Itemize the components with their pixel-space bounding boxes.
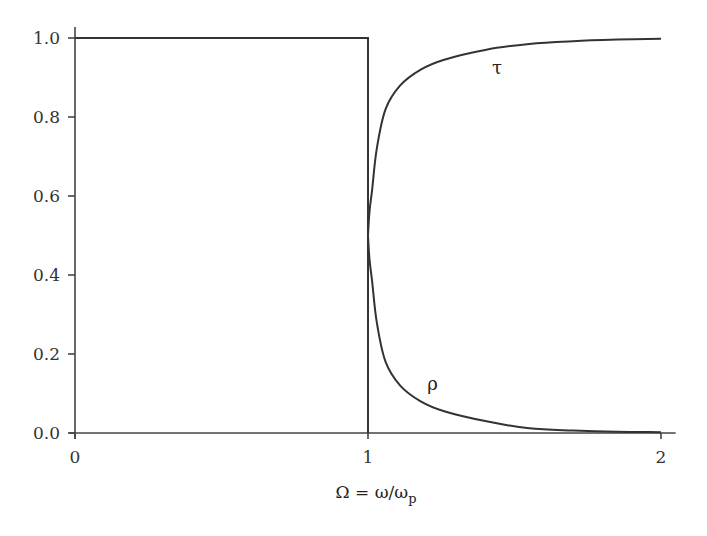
series-step-line bbox=[75, 38, 368, 433]
x-tick-label: 0 bbox=[70, 447, 81, 467]
x-axis-title-main: Ω = ω/ω bbox=[336, 482, 409, 502]
x-ticks: 012 bbox=[70, 433, 667, 467]
x-tick-label: 1 bbox=[363, 447, 374, 467]
y-tick-label: 0.2 bbox=[33, 344, 60, 364]
chart: 0.00.20.40.60.81.0 012 τρ Ω = ω/ωp bbox=[0, 0, 707, 536]
y-tick-label: 0.0 bbox=[33, 423, 60, 443]
series-tau-line bbox=[368, 39, 661, 236]
axes bbox=[69, 27, 676, 439]
y-tick-label: 0.8 bbox=[33, 107, 60, 127]
y-tick-label: 0.6 bbox=[33, 186, 60, 206]
y-tick-label: 1.0 bbox=[33, 28, 60, 48]
y-tick-label: 0.4 bbox=[33, 265, 60, 285]
x-axis-title: Ω = ω/ωp bbox=[336, 482, 417, 506]
series-rho-line bbox=[368, 236, 661, 433]
y-ticks: 0.00.20.40.60.81.0 bbox=[33, 28, 75, 443]
x-axis-title-subscript: p bbox=[408, 491, 416, 506]
series bbox=[75, 38, 661, 433]
x-tick-label: 2 bbox=[656, 447, 667, 467]
tau-label: τ bbox=[492, 57, 502, 78]
annotations: τρ bbox=[427, 57, 502, 394]
rho-label: ρ bbox=[427, 373, 438, 394]
